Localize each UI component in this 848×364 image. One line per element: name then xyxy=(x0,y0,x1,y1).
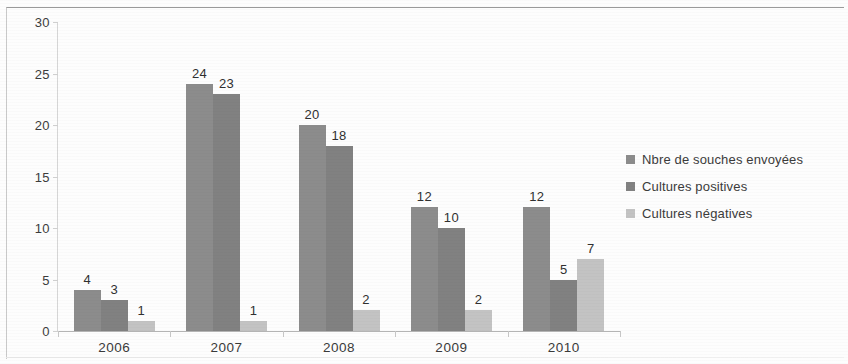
x-axis-tick-mark xyxy=(283,331,284,337)
legend-item[interactable]: Cultures négatives xyxy=(626,200,803,227)
bar[interactable] xyxy=(523,207,550,331)
x-axis-tick-mark xyxy=(508,331,509,337)
x-axis-tick-mark xyxy=(395,331,396,337)
y-axis-tick-mark xyxy=(53,125,58,126)
plot-area: 4312423120182121021257 xyxy=(58,22,620,331)
bar[interactable] xyxy=(128,321,155,331)
legend-item[interactable]: Cultures positives xyxy=(626,173,803,200)
bar-value-label: 4 xyxy=(83,272,91,287)
x-axis-tick-mark xyxy=(170,331,171,337)
bar[interactable] xyxy=(438,228,465,331)
bar[interactable] xyxy=(213,94,240,331)
y-axis-tick-label: 10 xyxy=(35,221,50,236)
bar-chart-figure: 051015202530 4312423120182121021257 Nbre… xyxy=(0,0,848,364)
bar-column: 12 xyxy=(523,22,550,331)
bar[interactable] xyxy=(353,310,380,331)
bar-value-label: 7 xyxy=(587,241,595,256)
bar-column: 23 xyxy=(213,22,240,331)
legend-item-label: Cultures négatives xyxy=(642,206,752,221)
bar-column: 7 xyxy=(577,22,604,331)
legend-item-label: Cultures positives xyxy=(642,179,747,194)
bar-value-label: 18 xyxy=(331,128,346,143)
bar[interactable] xyxy=(299,125,326,331)
chart-border-bottom xyxy=(6,357,844,358)
y-axis-tick-mark xyxy=(53,280,58,281)
bar-column: 12 xyxy=(411,22,438,331)
y-axis-tick-label: 15 xyxy=(35,169,50,184)
y-axis: 051015202530 xyxy=(0,0,50,364)
bar-column: 2 xyxy=(465,22,492,331)
x-axis-category-label: 2006 xyxy=(98,340,130,355)
y-axis-tick-label: 20 xyxy=(35,118,50,133)
y-axis-tick-label: 0 xyxy=(42,324,50,339)
legend-swatch-icon xyxy=(626,182,635,191)
x-axis-category-label: 2009 xyxy=(435,340,467,355)
bar-column: 5 xyxy=(550,22,577,331)
bar-column: 18 xyxy=(326,22,353,331)
bar[interactable] xyxy=(101,300,128,331)
bar[interactable] xyxy=(74,290,101,331)
bar-column: 1 xyxy=(240,22,267,331)
bar-column: 1 xyxy=(128,22,155,331)
x-axis-tick-mark xyxy=(58,331,59,337)
bar-value-label: 23 xyxy=(219,76,234,91)
bar-value-label: 24 xyxy=(192,66,207,81)
bar[interactable] xyxy=(550,280,577,332)
bar-value-label: 10 xyxy=(444,210,459,225)
bar[interactable] xyxy=(577,259,604,331)
y-axis-tick-mark xyxy=(53,22,58,23)
bar[interactable] xyxy=(240,321,267,331)
bar-value-label: 3 xyxy=(110,282,118,297)
bar[interactable] xyxy=(326,146,353,331)
y-axis-tick-mark xyxy=(53,228,58,229)
bar-column: 20 xyxy=(299,22,326,331)
y-axis-tick-mark xyxy=(53,74,58,75)
legend-item[interactable]: Nbre de souches envoyées xyxy=(626,146,803,173)
x-axis-category-label: 2008 xyxy=(323,340,355,355)
bar-column: 2 xyxy=(353,22,380,331)
bar-column: 3 xyxy=(101,22,128,331)
x-axis-category-label: 2010 xyxy=(548,340,580,355)
bar-value-label: 2 xyxy=(362,292,370,307)
y-axis-tick-label: 30 xyxy=(35,15,50,30)
x-axis-tick-mark xyxy=(620,331,621,337)
y-axis-tick-label: 5 xyxy=(42,272,50,287)
bar[interactable] xyxy=(186,84,213,331)
bar-value-label: 1 xyxy=(137,303,145,318)
bar-value-label: 2 xyxy=(475,292,483,307)
bar-column: 24 xyxy=(186,22,213,331)
y-axis-tick-mark xyxy=(53,177,58,178)
x-axis-category-label: 2007 xyxy=(211,340,243,355)
bar-value-label: 5 xyxy=(560,262,568,277)
bar[interactable] xyxy=(465,310,492,331)
legend-swatch-icon xyxy=(626,155,635,164)
bar-value-label: 12 xyxy=(417,189,432,204)
bar-value-label: 12 xyxy=(529,189,544,204)
chart-legend: Nbre de souches envoyéesCultures positiv… xyxy=(626,146,803,227)
bar-column: 4 xyxy=(74,22,101,331)
legend-item-label: Nbre de souches envoyées xyxy=(642,152,803,167)
bar-value-label: 1 xyxy=(250,303,258,318)
y-axis-tick-label: 25 xyxy=(35,66,50,81)
bar-value-label: 20 xyxy=(304,107,319,122)
legend-swatch-icon xyxy=(626,209,635,218)
bar[interactable] xyxy=(411,207,438,331)
bar-column: 10 xyxy=(438,22,465,331)
x-axis-line xyxy=(57,331,621,332)
